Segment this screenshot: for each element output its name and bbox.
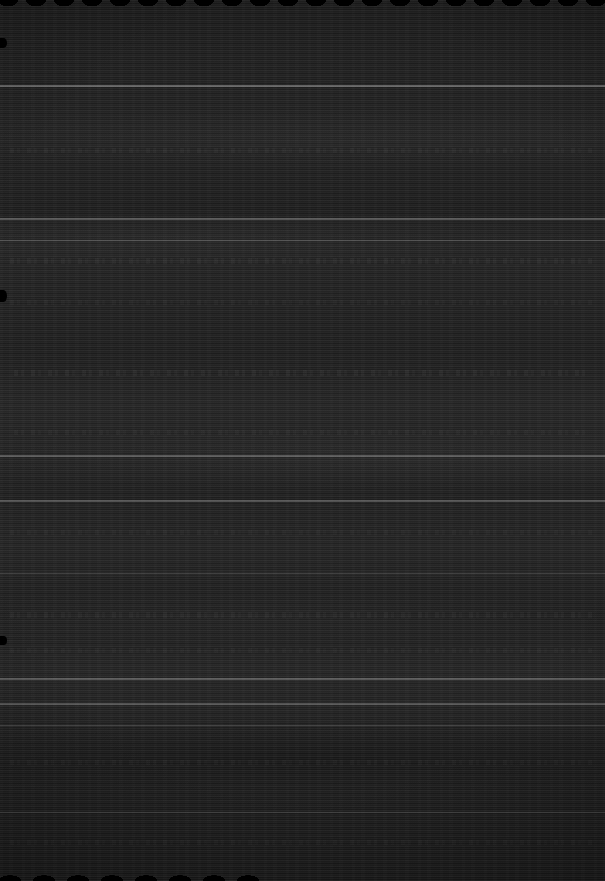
screenshot-canvas bbox=[0, 0, 605, 881]
background-wash bbox=[0, 0, 605, 881]
